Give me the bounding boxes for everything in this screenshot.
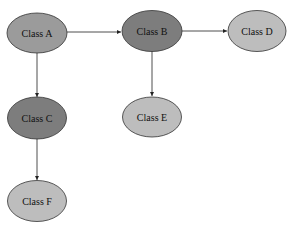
class-diagram: Class A Class B Class D Class C Class E … [0, 0, 289, 231]
node-class-f[interactable]: Class F [8, 181, 67, 222]
node-class-b[interactable]: Class B [122, 11, 182, 52]
node-class-a-label: Class A [22, 28, 54, 39]
node-class-e-label: Class E [137, 112, 167, 123]
node-class-c-label: Class C [22, 113, 53, 124]
node-class-a[interactable]: Class A [7, 13, 67, 53]
node-class-d-label: Class D [241, 26, 272, 37]
node-class-f-label: Class F [22, 196, 52, 207]
node-class-e[interactable]: Class E [123, 97, 182, 137]
node-class-c[interactable]: Class C [8, 97, 67, 139]
node-class-d[interactable]: Class D [228, 11, 286, 52]
node-class-b-label: Class B [137, 26, 168, 37]
